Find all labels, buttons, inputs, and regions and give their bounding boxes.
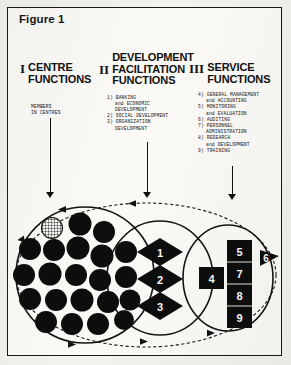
member-dot: [97, 291, 119, 313]
service-box-label-4: 4: [208, 273, 215, 285]
member-dot: [45, 289, 67, 311]
member-dot: [19, 288, 41, 310]
loop-arrow-bottom-3: [207, 330, 215, 337]
service-box-label-7: 7: [236, 268, 242, 280]
service-box-label-8: 8: [236, 290, 242, 302]
figure-container: Figure 1 I CENTRE FUNCTIONS MEMBERS IN C…: [0, 0, 291, 365]
service-function-boxes: [199, 240, 252, 328]
member-dot: [120, 290, 141, 311]
member-dot: [13, 264, 35, 286]
member-dot: [61, 313, 83, 335]
member-dot: [114, 310, 134, 330]
member-dot: [67, 237, 90, 260]
member-dot: [115, 266, 137, 288]
member-dot: [35, 311, 57, 333]
loop-arrow-top-1: [128, 200, 136, 206]
service-box-label-5: 5: [236, 246, 242, 258]
member-dot: [69, 213, 92, 236]
member-dot: [71, 289, 94, 312]
member-dot: [19, 238, 41, 260]
member-dot: [91, 245, 114, 268]
relationship-diagram: 1 2 3 5 7 8 9 4 6: [0, 0, 291, 365]
service-box-label-9: 9: [236, 312, 242, 324]
member-dot-highlighted: [42, 218, 63, 239]
member-dot: [93, 221, 115, 243]
diamond-label-1: 1: [157, 247, 163, 259]
member-dot: [65, 264, 87, 286]
service-label-6: 6: [263, 253, 269, 264]
member-dot: [115, 241, 137, 263]
member-dot: [89, 269, 111, 291]
member-dot: [43, 239, 65, 261]
member-dot: [87, 313, 109, 335]
member-dot: [39, 263, 62, 286]
loop-arrow-bottom-2: [140, 338, 148, 345]
diamond-label-2: 2: [157, 274, 163, 286]
diamond-label-3: 3: [157, 301, 163, 313]
